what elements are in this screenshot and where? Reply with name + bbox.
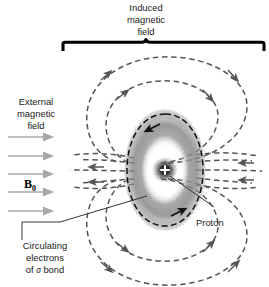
circulating-electrons-label-line3: of σ bond [26, 264, 65, 275]
figure-canvas: Induced magnetic field External magnetic… [0, 0, 269, 287]
induced-magnetic-field-figure: Induced magnetic field External magnetic… [0, 0, 269, 287]
circulating-electrons-label-line1: Circulating [23, 240, 67, 251]
circulating-electrons-label-line2: electrons [26, 252, 64, 263]
induced-field-label-line2: magnetic [127, 14, 165, 25]
b0-subscript: 0 [32, 184, 36, 193]
sigma-bond-prefix: of [26, 264, 36, 275]
external-field-label-line3: field [27, 120, 44, 131]
proton-label: Proton [196, 217, 224, 228]
external-field-label-line1: External [19, 96, 53, 107]
induced-field-label-line1: Induced [129, 2, 162, 13]
sigma-bond-suffix: bond [41, 264, 64, 275]
b0-letter: B [24, 177, 32, 191]
induced-field-label-line3: field [137, 26, 154, 37]
external-field-label-line2: magnetic [17, 108, 55, 119]
